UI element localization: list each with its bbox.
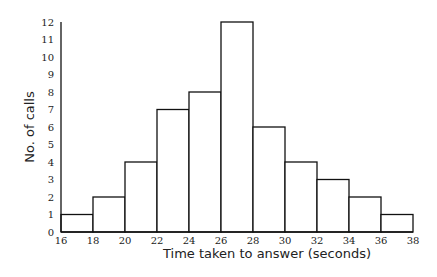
y-tick-label: 9: [48, 69, 54, 80]
x-tick-label: 26: [215, 235, 228, 246]
histogram-chart: 0123456789101112 16182022242628303234363…: [0, 0, 437, 277]
y-axis-label: No. of calls: [22, 91, 37, 163]
x-tick-label: 28: [247, 235, 260, 246]
histogram-bar: [157, 110, 189, 233]
x-tick-label: 24: [183, 235, 196, 246]
y-tick-label: 6: [48, 122, 54, 133]
y-tick-label: 11: [41, 34, 54, 45]
x-tick-label: 36: [375, 235, 388, 246]
histogram-bar: [253, 127, 285, 232]
y-tick-label: 7: [48, 104, 54, 115]
histogram-bar: [125, 162, 157, 232]
x-tick-label: 16: [55, 235, 68, 246]
histogram-bar: [317, 180, 349, 233]
y-tick-label: 2: [48, 192, 54, 203]
x-tick-label: 34: [343, 235, 356, 246]
y-tick-label: 3: [48, 174, 54, 185]
histogram-bar: [189, 92, 221, 232]
histogram-bar: [93, 197, 125, 232]
y-tick-label: 4: [48, 157, 54, 168]
histogram-bar: [221, 22, 253, 232]
histogram-bar: [61, 215, 93, 233]
histogram-bar: [349, 197, 381, 232]
x-tick-label: 32: [311, 235, 324, 246]
x-tick-labels: 161820222426283032343638: [55, 235, 420, 246]
histogram-bars: [61, 22, 413, 232]
histogram-bar: [285, 162, 317, 232]
y-tick-label: 10: [41, 52, 54, 63]
y-tick-label: 5: [48, 139, 54, 150]
x-tick-label: 20: [119, 235, 132, 246]
histogram-bar: [381, 215, 413, 233]
y-tick-labels: 0123456789101112: [41, 17, 54, 238]
x-tick-label: 18: [87, 235, 100, 246]
x-tick-label: 30: [279, 235, 292, 246]
y-tick-label: 8: [48, 87, 54, 98]
y-tick-label: 12: [41, 17, 54, 28]
y-tick-label: 0: [48, 227, 54, 238]
y-tick-label: 1: [48, 209, 54, 220]
x-tick-label: 22: [151, 235, 164, 246]
x-tick-label: 38: [407, 235, 420, 246]
x-axis-label: Time taken to answer (seconds): [162, 246, 371, 261]
